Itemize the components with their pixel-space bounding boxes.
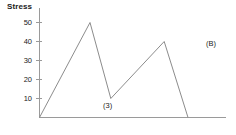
y-tick-label-30: 30: [18, 56, 32, 65]
y-tick-label-50: 50: [18, 18, 32, 27]
valley-annotation-label: (3): [103, 101, 112, 110]
stress-line-chart: [0, 0, 236, 135]
y-tick-label-10: 10: [18, 94, 32, 103]
y-tick-label-40: 40: [18, 37, 32, 46]
chart-screenshot: Stress 50 40 30 20 10 (3) (B): [0, 0, 236, 135]
y-axis-title: Stress: [7, 2, 32, 11]
panel-label: (B): [206, 39, 216, 48]
y-tick-label-20: 20: [18, 75, 32, 84]
stress-data-line: [40, 23, 189, 118]
